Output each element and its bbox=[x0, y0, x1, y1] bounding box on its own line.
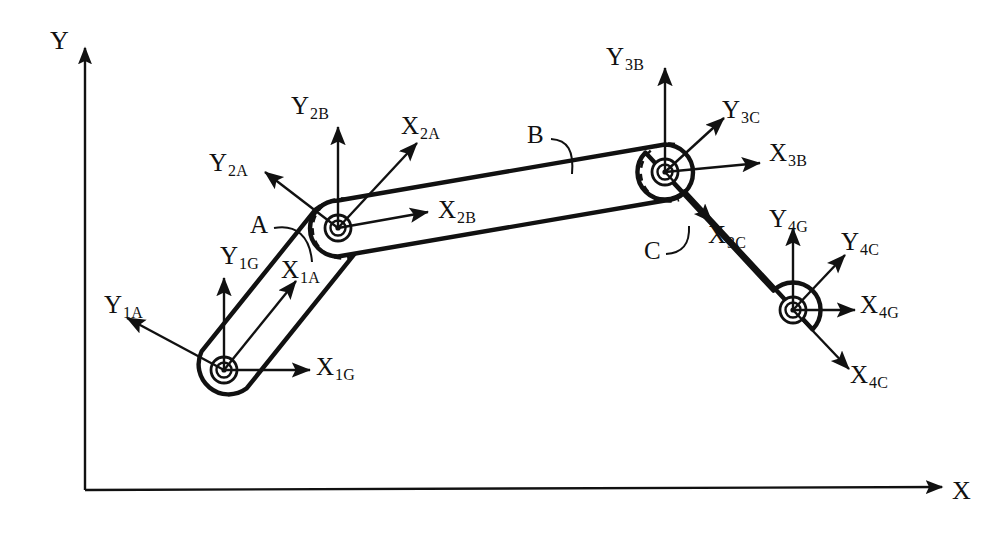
linkage-drawing bbox=[0, 0, 991, 547]
frame-sub-y4c: 4C bbox=[860, 241, 879, 258]
frame-label-y4c: Y4C bbox=[841, 229, 878, 254]
x-axis-line bbox=[85, 487, 942, 490]
frame-base-x2a: X bbox=[401, 112, 419, 139]
frame-label-y3c: Y3C bbox=[722, 97, 759, 122]
frame-base-x2b: X bbox=[438, 196, 456, 223]
frame-sub-x4g: 4G bbox=[879, 304, 899, 321]
frame-label-y1g: Y1G bbox=[220, 243, 258, 268]
frame-sub-y1a: 1A bbox=[123, 304, 143, 321]
linkage-diagram: Y X A B C Y1A Y1G X1A X1G Y2A Y2B X2A X2… bbox=[0, 0, 991, 547]
frame-sub-y4g: 4G bbox=[788, 218, 808, 235]
link-b-body bbox=[310, 145, 693, 257]
frame-base-x3b: X bbox=[769, 139, 787, 166]
link-label-c: C bbox=[644, 238, 661, 263]
frame-sub-x3c: 3C bbox=[727, 234, 746, 251]
frame-sub-y1g: 1G bbox=[239, 255, 259, 272]
vector-y2a-arrow bbox=[265, 172, 338, 228]
frame-sub-x3b: 3B bbox=[788, 152, 807, 169]
frame-base-x3c: X bbox=[708, 221, 726, 248]
frame-sub-x1a: 1A bbox=[300, 269, 320, 286]
link-label-b: B bbox=[527, 122, 544, 147]
global-x-axis-label: X bbox=[952, 478, 971, 504]
frame-base-y4c: Y bbox=[841, 228, 859, 255]
frame-sub-y3b: 3B bbox=[625, 56, 644, 73]
frame-base-y3c: Y bbox=[722, 96, 740, 123]
frame-label-y2b: Y2B bbox=[291, 93, 328, 118]
frame-base-y4g: Y bbox=[769, 205, 787, 232]
frame-label-y2a: Y2A bbox=[209, 150, 247, 175]
frame-sub-x2a: 2A bbox=[420, 125, 440, 142]
frame-label-x1g: X1G bbox=[316, 354, 354, 379]
frame-sub-y2b: 2B bbox=[310, 105, 329, 122]
frame-sub-y3c: 3C bbox=[741, 109, 760, 126]
frame-sub-x2b: 2B bbox=[457, 209, 476, 226]
frame-base-x1a: X bbox=[281, 256, 299, 283]
frame-base-y1g: Y bbox=[220, 242, 238, 269]
frame-base-x1g: X bbox=[316, 353, 334, 380]
frame-sub-x4c: 4C bbox=[869, 374, 888, 391]
frame-base-x4c: X bbox=[850, 361, 868, 388]
frame-sub-y2a: 2A bbox=[228, 162, 248, 179]
frame-label-x4c: X4C bbox=[850, 362, 887, 387]
frame-label-x1a: X1A bbox=[281, 257, 319, 282]
frame-label-x3b: X3B bbox=[769, 140, 806, 165]
frame-label-x4g: X4G bbox=[860, 292, 898, 317]
frame-base-x4g: X bbox=[860, 291, 878, 318]
link-label-a: A bbox=[250, 212, 268, 237]
frame-label-x3c: X3C bbox=[708, 222, 745, 247]
frame-base-y1a: Y bbox=[104, 291, 122, 318]
frame-label-y4g: Y4G bbox=[769, 206, 807, 231]
frame-base-y2b: Y bbox=[291, 92, 309, 119]
frame-label-y3b: Y3B bbox=[606, 44, 643, 69]
frame-label-x2a: X2A bbox=[401, 113, 439, 138]
frame-base-y3b: Y bbox=[606, 43, 624, 70]
frame-sub-x1g: 1G bbox=[335, 366, 355, 383]
global-axes bbox=[85, 48, 942, 490]
frame-label-x2b: X2B bbox=[438, 197, 475, 222]
frame-label-y1a: Y1A bbox=[104, 292, 142, 317]
global-y-axis-label: Y bbox=[50, 28, 69, 54]
leader-c bbox=[666, 226, 689, 254]
frame-base-y2a: Y bbox=[209, 149, 227, 176]
